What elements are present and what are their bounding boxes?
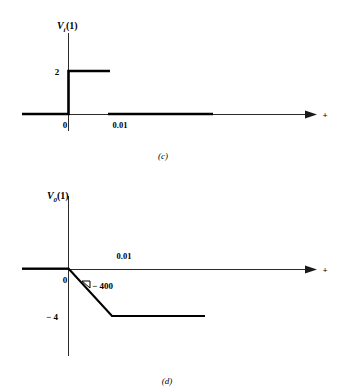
panel-d-y-axis-label-argument: (1) <box>57 190 69 202</box>
panel-c-x-tick-001: 0.01 <box>113 120 128 130</box>
panel-c-caption: (c) <box>158 151 168 161</box>
panel-d-x-tick-001: 0.01 <box>117 251 132 261</box>
panel-c-group: 2 0 0.01 + V i (1) (c) <box>22 20 328 161</box>
panel-c-y-tick-2: 2 <box>55 67 60 77</box>
panel-d-y-tick-minus4: − 4 <box>46 312 58 322</box>
panel-c-x-axis-arrowhead <box>305 111 317 119</box>
panel-d-group: − 400 0 0.01 − 4 + V 0 (1) (d) <box>22 190 328 386</box>
panel-c-x-tick-0: 0 <box>63 120 68 130</box>
panel-d-caption: (d) <box>162 376 173 386</box>
panel-d-slope-annotation: − 400 <box>92 281 113 291</box>
panel-c-waveform-pulse <box>22 71 110 114</box>
panel-c-x-axis-label: + <box>322 110 327 120</box>
panel-d-waveform-ramp <box>22 269 205 317</box>
figure-container: 2 0 0.01 + V i (1) (c) <box>0 0 339 391</box>
panel-c-y-axis-label-argument: (1) <box>66 20 78 32</box>
panel-d-x-tick-0: 0 <box>63 275 68 285</box>
panel-d-x-axis-arrowhead <box>305 266 317 274</box>
waveform-figure: 2 0 0.01 + V i (1) (c) <box>0 0 339 391</box>
panel-d-x-axis-label: + <box>322 265 327 275</box>
